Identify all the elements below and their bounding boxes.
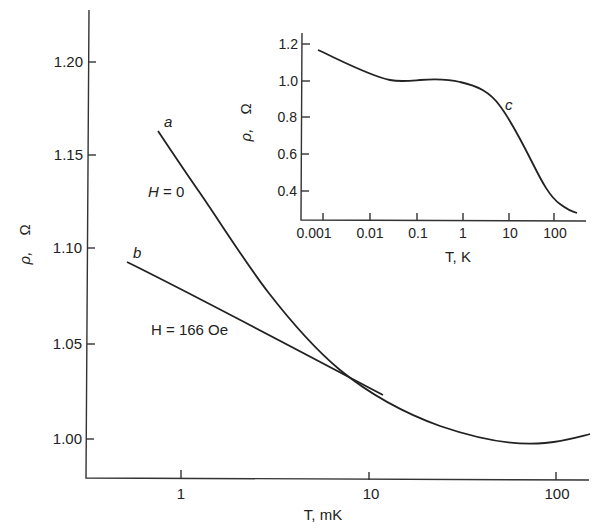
chart-canvas: 1.20 1.15 1.10 1.05 1.00 1 10 100 T, mK …: [0, 0, 615, 529]
curve-b-annotation: H = 166 Oe: [151, 321, 228, 338]
y-tick-1.10: 1.10: [53, 239, 82, 256]
inset-y-tick-0.6: 0.6: [278, 146, 298, 162]
inset-x-tick-100: 100: [543, 225, 567, 241]
x-tick-1: 1: [177, 485, 185, 502]
main-x-axis-title: T, mK: [304, 506, 342, 523]
x-tick-10: 10: [363, 485, 380, 502]
inset-x-axis-title: T, K: [445, 248, 471, 265]
svg-text:Ω: Ω: [16, 224, 33, 235]
inset-y-tick-0.4: 0.4: [278, 183, 298, 199]
inset-x-tick-0.1: 0.1: [408, 225, 428, 241]
main-y-axis-title: ρ, Ω: [16, 224, 33, 265]
svg-text:Ω: Ω: [237, 103, 254, 114]
curve-a-label: a: [164, 113, 172, 130]
inset-plot: 1.2 1.0 0.8 0.6 0.4 0.001 0.01 0.1 1 10 …: [237, 33, 586, 265]
curve-a: [158, 131, 590, 444]
curve-c: [318, 50, 577, 213]
y-tick-1.15: 1.15: [54, 146, 83, 163]
inset-x-tick-0.001: 0.001: [296, 225, 331, 241]
svg-text:ρ,: ρ,: [16, 252, 33, 266]
x-tick-100: 100: [544, 485, 569, 502]
main-axes: [86, 10, 589, 480]
y-tick-1.05: 1.05: [53, 335, 82, 352]
inset-y-tick-labels: 1.2 1.0 0.8 0.6 0.4: [278, 36, 299, 199]
inset-y-tick-0.8: 0.8: [278, 109, 298, 125]
main-x-tick-labels: 1 10 100: [177, 485, 570, 502]
main-plot: 1.20 1.15 1.10 1.05 1.00 1 10 100 T, mK …: [16, 10, 590, 523]
curve-b-label: b: [133, 244, 141, 261]
inset-x-tick-0.01: 0.01: [356, 225, 383, 241]
curve-c-label: c: [505, 96, 513, 113]
inset-y-tick-1.2: 1.2: [279, 36, 299, 52]
inset-x-tick-10: 10: [502, 225, 518, 241]
curve-a-annotation: H = 0: [148, 183, 184, 200]
inset-x-tick-labels: 0.001 0.01 0.1 1 10 100: [296, 225, 566, 241]
y-tick-1.20: 1.20: [54, 53, 83, 70]
main-y-tick-labels: 1.20 1.15 1.10 1.05 1.00: [53, 53, 83, 447]
svg-text:ρ,: ρ,: [237, 129, 254, 143]
inset-y-tick-1.0: 1.0: [279, 73, 299, 89]
y-tick-1.00: 1.00: [53, 430, 82, 447]
inset-y-axis-title: ρ, Ω: [237, 103, 254, 142]
inset-x-tick-1: 1: [459, 225, 467, 241]
